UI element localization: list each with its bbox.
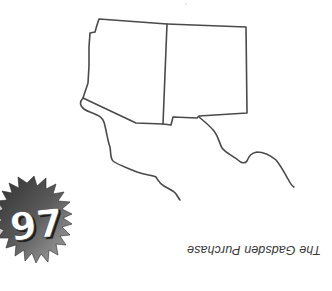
map-caption: The Gadsden Purchase (184, 243, 324, 257)
east-border-line (199, 117, 294, 187)
arizona-outline (83, 19, 167, 124)
badge-97: 97 97 (0, 0, 90, 291)
west-border-line (80, 98, 180, 200)
new-mexico-outline (163, 24, 247, 125)
badge-number: 97 97 (8, 200, 67, 251)
svg-text:97: 97 (8, 200, 65, 249)
speck-mark (185, 3, 187, 5)
